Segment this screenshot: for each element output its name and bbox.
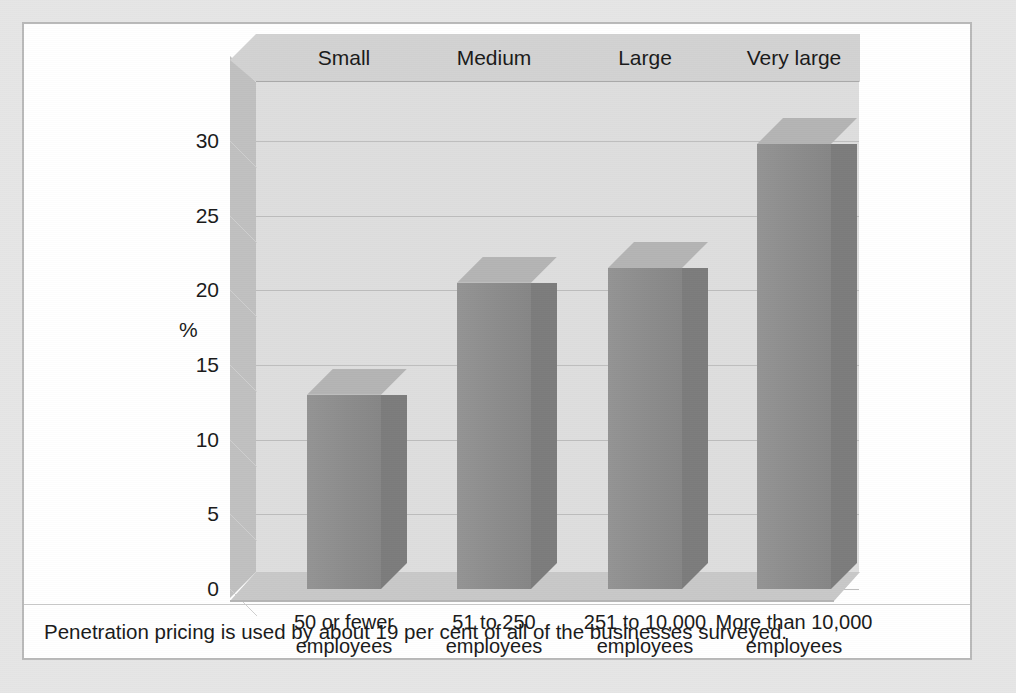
bar-1 <box>307 369 381 589</box>
bar-4-side-face <box>831 144 857 589</box>
gridline-riser-25 <box>230 216 257 243</box>
bar-2 <box>457 257 531 589</box>
figure-caption-strip: Penetration pricing is used by about 19 … <box>24 604 970 658</box>
y-tick-label-25: 25 <box>159 205 219 226</box>
y-tick-label-0: 0 <box>159 578 219 599</box>
gridline-riser-10 <box>230 440 257 467</box>
gridline-riser-20 <box>230 290 257 317</box>
figure-caption: Penetration pricing is used by about 19 … <box>24 620 787 644</box>
chart-floor-front-edge <box>230 600 834 602</box>
bar-2-front-face <box>457 283 531 589</box>
figure-root: 302520151050 % SmallMediumLargeVery larg… <box>0 0 1016 693</box>
bar-3-front-face <box>608 268 682 589</box>
y-tick-label-10: 10 <box>159 429 219 450</box>
chart-header-rule <box>256 81 859 82</box>
y-tick-label-15: 15 <box>159 354 219 375</box>
y-axis-label: % <box>179 318 198 342</box>
bar-4-front-face <box>757 144 831 589</box>
gridline-riser-15 <box>230 365 257 392</box>
bar-4 <box>757 118 831 589</box>
gridline-riser-30 <box>230 141 257 168</box>
y-tick-label-5: 5 <box>159 503 219 524</box>
bar-3 <box>608 242 682 589</box>
chart-plot-area: 302520151050 % SmallMediumLargeVery larg… <box>24 24 970 658</box>
category-header-4: Very large <box>694 46 894 70</box>
bar-2-side-face <box>531 283 557 589</box>
y-tick-label-20: 20 <box>159 279 219 300</box>
bar-1-side-face <box>381 395 407 589</box>
y-tick-label-30: 30 <box>159 130 219 151</box>
figure-panel: 302520151050 % SmallMediumLargeVery larg… <box>22 22 972 660</box>
gridline-riser-5 <box>230 514 257 541</box>
bar-3-side-face <box>682 268 708 589</box>
bar-1-front-face <box>307 395 381 589</box>
